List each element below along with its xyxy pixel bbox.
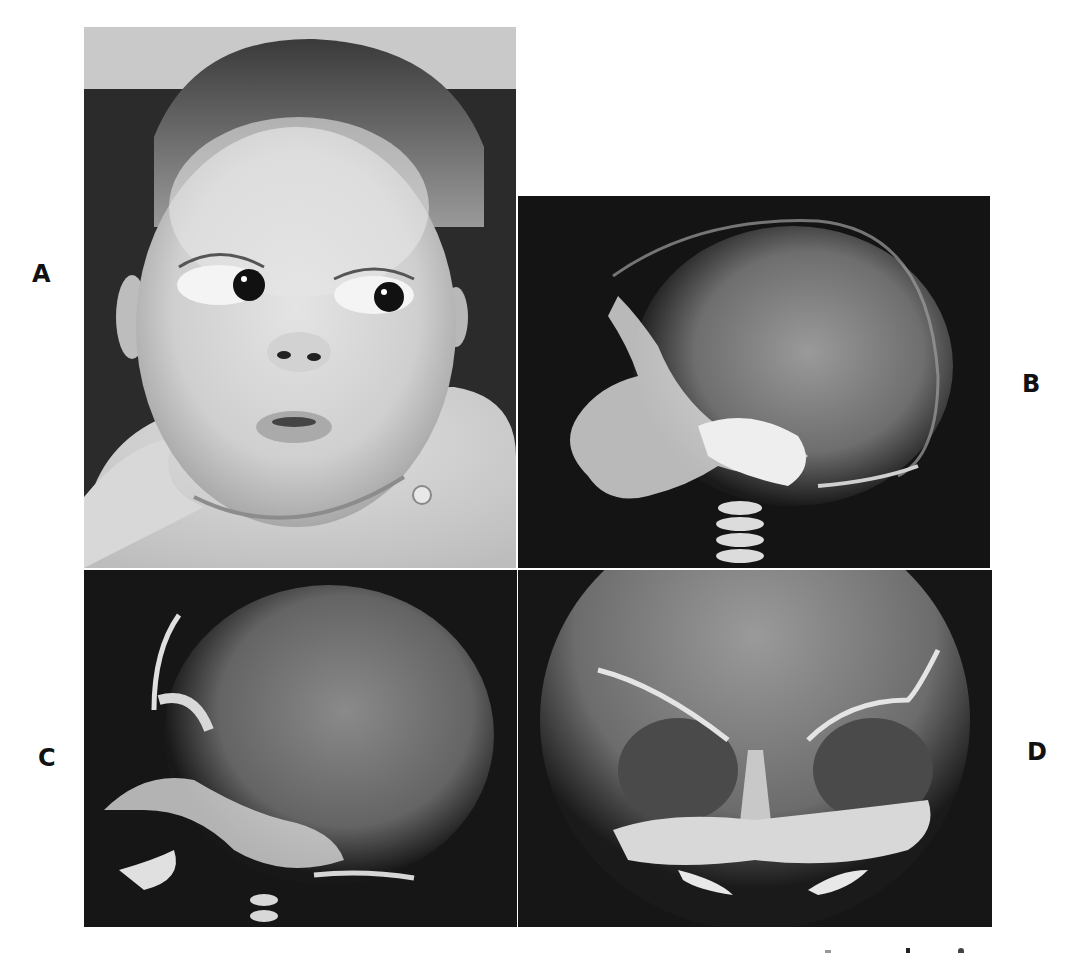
frontal-skull-xray-image	[518, 570, 992, 927]
panel-c-xray-lateral	[84, 570, 517, 927]
cropped-text-fragment	[958, 948, 964, 953]
panel-label-c: C	[38, 746, 56, 770]
panel-label-a: A	[32, 262, 51, 286]
lateral-skull-xray-image-2	[84, 570, 517, 927]
panel-b-xray-lateral	[518, 196, 990, 568]
infant-photo-image	[84, 27, 516, 568]
panel-label-b: B	[1022, 372, 1040, 396]
cropped-text-fragment	[906, 948, 910, 953]
panel-d-xray-frontal	[518, 570, 992, 927]
panel-a-photo	[84, 27, 516, 568]
panel-label-d: D	[1027, 740, 1047, 764]
lateral-skull-xray-image	[518, 196, 990, 568]
